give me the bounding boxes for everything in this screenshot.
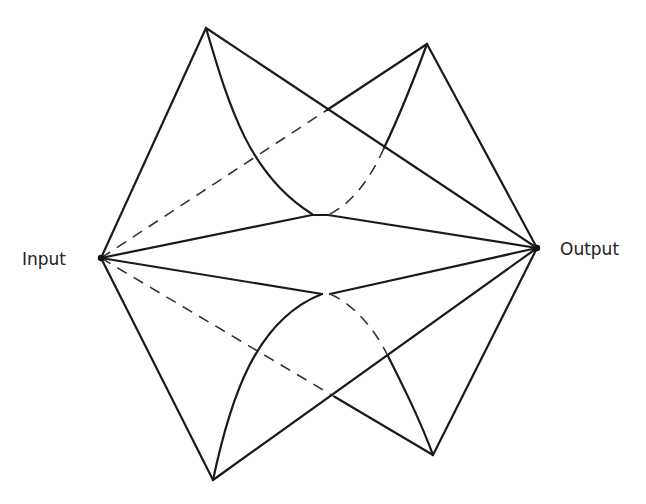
input-label: Input xyxy=(22,249,66,269)
input-to-top-right-visible-edge xyxy=(327,44,427,110)
top-right-curve-visible-edge xyxy=(384,44,427,148)
top-right-curve-hidden-edge xyxy=(328,148,384,215)
input-node xyxy=(98,255,104,261)
output-label: Output xyxy=(560,239,619,259)
edges-group xyxy=(101,28,537,480)
bottom-left-to-output-edge xyxy=(213,248,537,480)
upper-center-to-output-edge xyxy=(328,215,537,248)
output-node xyxy=(534,245,540,251)
nodes-group xyxy=(98,245,540,261)
input-to-bottom-right-visible-edge xyxy=(335,397,433,455)
bottom-left-to-lower-center-curve-edge xyxy=(213,294,322,480)
input-to-lower-center-edge xyxy=(101,258,322,294)
top-left-to-upper-center-curve-edge xyxy=(206,28,312,214)
lower-center-curve-hidden-edge xyxy=(330,294,388,356)
network-diagram xyxy=(0,0,646,504)
bottom-right-to-output-edge xyxy=(433,248,537,455)
top-right-to-output-edge xyxy=(427,44,537,248)
lower-center-curve-visible-edge xyxy=(388,356,433,455)
top-left-to-output-edge xyxy=(206,28,537,248)
